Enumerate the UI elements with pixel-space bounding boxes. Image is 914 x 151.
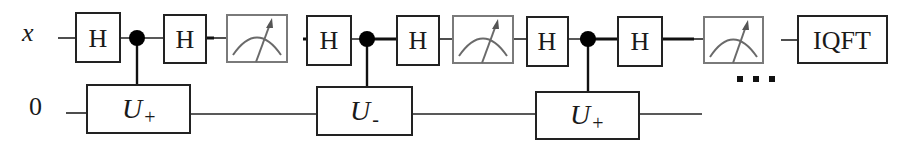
qubit-label-zero: 0 xyxy=(29,92,42,121)
measurement-meter-icon-1 xyxy=(227,15,287,62)
controlled-u-minus-gate: U- xyxy=(317,87,412,135)
control-dot-icon xyxy=(359,31,375,47)
iqft-gate: IQFT xyxy=(798,16,887,63)
hadamard-gate-2: H xyxy=(164,15,206,63)
hadamard-gate-3: H xyxy=(307,16,351,65)
svg-text:H: H xyxy=(631,27,650,56)
qubit-label-x: x xyxy=(21,18,34,47)
controlled-u-plus-gate-1: U+ xyxy=(87,85,190,133)
control-1 xyxy=(129,30,145,85)
hadamard-gate-4: H xyxy=(397,16,439,65)
hadamard-gate-5: H xyxy=(527,17,568,66)
svg-text:IQFT: IQFT xyxy=(813,26,871,55)
svg-text:H: H xyxy=(409,26,428,55)
svg-text:H: H xyxy=(320,26,339,55)
quantum-circuit-diagram: x 0 H U+ H xyxy=(0,0,914,151)
control-dot-icon xyxy=(580,31,596,47)
control-3 xyxy=(580,31,596,92)
control-dot-icon xyxy=(129,30,145,46)
svg-text:H: H xyxy=(89,24,108,53)
measurement-meter-icon-2 xyxy=(453,16,513,63)
controlled-u-plus-gate-2: U+ xyxy=(536,92,639,139)
control-2 xyxy=(359,31,375,87)
measurement-meter-icon-3 xyxy=(704,17,763,63)
svg-text:H: H xyxy=(176,25,195,54)
hadamard-gate-6: H xyxy=(618,17,662,66)
ellipsis-dots xyxy=(737,76,775,82)
svg-text:H: H xyxy=(538,27,557,56)
hadamard-gate-1: H xyxy=(76,13,120,62)
